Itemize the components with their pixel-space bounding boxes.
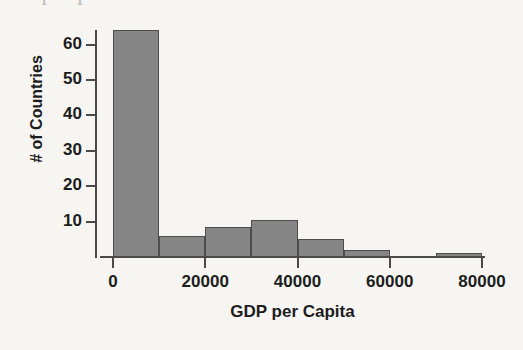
histogram-bar <box>205 227 251 257</box>
x-axis-line <box>100 256 485 258</box>
histogram-bar <box>159 236 205 257</box>
y-axis-tick <box>86 221 97 223</box>
x-axis-title: GDP per Capita <box>100 302 485 322</box>
y-axis-tick-label-text: 10 <box>36 211 82 231</box>
x-axis-tick-label: 40000 <box>248 272 348 292</box>
y-axis-tick-label: 10 <box>32 211 82 231</box>
x-axis-tick <box>297 257 299 268</box>
plot-area: 102030405060 020000400006000080000 # of … <box>0 0 523 350</box>
histogram-bar <box>113 30 159 257</box>
y-axis-tick <box>86 44 97 46</box>
x-axis-tick-label: 80000 <box>432 272 523 292</box>
histogram-bar <box>298 239 344 257</box>
x-axis-tick <box>204 257 206 268</box>
y-axis-line <box>95 30 97 258</box>
x-axis-tick-label: 0 <box>63 272 163 292</box>
histogram-bar <box>251 220 297 257</box>
x-axis-tick <box>389 257 391 268</box>
x-axis-tick-label: 20000 <box>155 272 255 292</box>
histogram-figure: o p p 102030405060 020000400006000080000… <box>0 0 523 350</box>
y-axis-tick <box>86 79 97 81</box>
y-axis-tick <box>86 150 97 152</box>
x-axis-tick <box>481 257 483 268</box>
y-axis-tick <box>86 185 97 187</box>
x-axis-tick-label: 60000 <box>340 272 440 292</box>
y-axis-tick <box>86 114 97 116</box>
y-axis-title: # of Countries <box>28 24 46 194</box>
x-axis-tick <box>112 257 114 268</box>
